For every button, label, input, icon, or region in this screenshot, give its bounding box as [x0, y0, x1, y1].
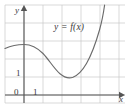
plot-background	[5, 5, 125, 103]
function-equation-label: y = f(x)	[54, 23, 84, 33]
graph-canvas	[0, 0, 130, 108]
x-tick-label-1: 1	[33, 88, 38, 97]
y-axis-label: y	[15, 6, 19, 15]
origin-tick-label: 0	[14, 88, 19, 97]
function-graph-figure: y x 0 1 1 y = f(x)	[0, 0, 130, 108]
x-axis-label: x	[119, 95, 123, 104]
y-tick-label-1: 1	[16, 69, 21, 78]
